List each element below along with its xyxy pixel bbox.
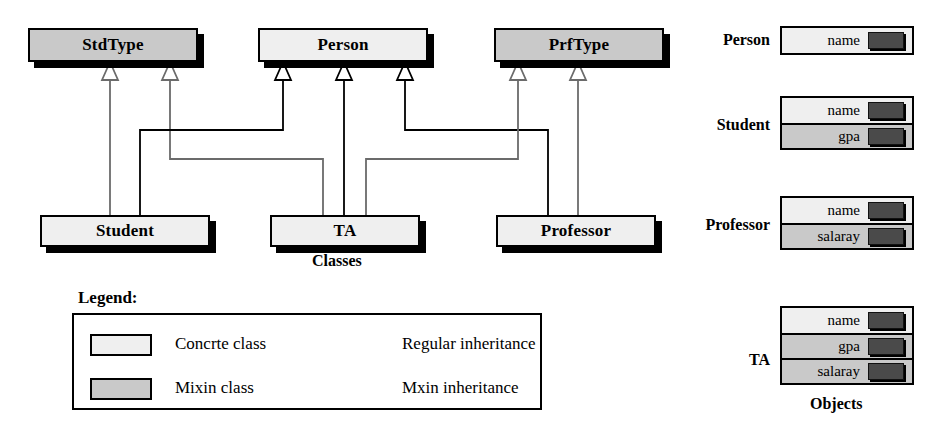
object-slot-row: name	[782, 308, 912, 333]
object-value-chip	[868, 312, 904, 329]
class-box-label: TA	[334, 221, 357, 241]
class-box-label: Person	[317, 35, 368, 55]
legend-swatch-concrete-class	[90, 334, 152, 356]
legend-label-regular-inheritance: Regular inheritance	[402, 334, 536, 354]
object-box-person[interactable]: name	[780, 26, 914, 55]
object-box-professor[interactable]: name salaray	[780, 196, 914, 250]
object-box-ta[interactable]: name gpa salaray	[780, 306, 914, 385]
object-value-chip	[868, 363, 904, 380]
object-value-chip	[868, 32, 904, 49]
class-box-student[interactable]: Student	[40, 215, 210, 247]
class-box-stdtype[interactable]: StdType	[28, 28, 198, 62]
legend-label-mixin-inheritance: Mxin inheritance	[402, 378, 519, 398]
object-slot-row: salaray	[782, 358, 912, 383]
object-slot-name: name	[828, 202, 860, 219]
object-slot-name: salaray	[818, 363, 860, 380]
inheritance-lines: StdType (straight up, gray mixin line) -…	[110, 80, 578, 215]
object-slot-row: name	[782, 98, 912, 123]
classes-caption: Classes	[312, 252, 362, 270]
objects-caption: Objects	[810, 395, 862, 413]
object-slot-name: name	[828, 102, 860, 119]
object-slot-row: name	[782, 28, 912, 53]
class-box-label: StdType	[82, 35, 144, 55]
object-label-professor: Professor	[650, 216, 770, 234]
object-slot-row: gpa	[782, 333, 912, 358]
object-label-person: Person	[688, 31, 770, 49]
class-box-label: PrfType	[549, 35, 610, 55]
legend-label-concrete-class: Concrte class	[175, 334, 266, 354]
legend-title: Legend:	[78, 288, 138, 308]
object-value-chip	[868, 338, 904, 355]
diagram-canvas: StdType (straight up, gray mixin line) -…	[0, 0, 945, 448]
object-value-chip	[868, 102, 904, 119]
object-value-chip	[868, 228, 904, 245]
object-slot-row: salaray	[782, 223, 912, 248]
object-slot-name: name	[828, 32, 860, 49]
object-slot-row: gpa	[782, 123, 912, 148]
class-box-prftype[interactable]: PrfType	[494, 28, 664, 62]
class-box-ta[interactable]: TA	[270, 215, 420, 247]
object-label-student: Student	[670, 116, 770, 134]
object-box-student[interactable]: name gpa	[780, 96, 914, 150]
object-value-chip	[868, 128, 904, 145]
class-box-professor[interactable]: Professor	[496, 215, 656, 247]
class-box-label: Professor	[541, 221, 611, 241]
object-slot-row: name	[782, 198, 912, 223]
object-label-ta: TA	[690, 351, 770, 369]
class-box-person[interactable]: Person	[258, 28, 428, 62]
object-slot-name: gpa	[838, 128, 860, 145]
class-box-label: Student	[96, 221, 154, 241]
object-slot-name: name	[828, 312, 860, 329]
object-value-chip	[868, 202, 904, 219]
object-slot-name: salaray	[818, 228, 860, 245]
legend-swatch-mixin-class	[90, 378, 152, 400]
legend-label-mixin-class: Mixin class	[175, 378, 254, 398]
object-slot-name: gpa	[838, 338, 860, 355]
